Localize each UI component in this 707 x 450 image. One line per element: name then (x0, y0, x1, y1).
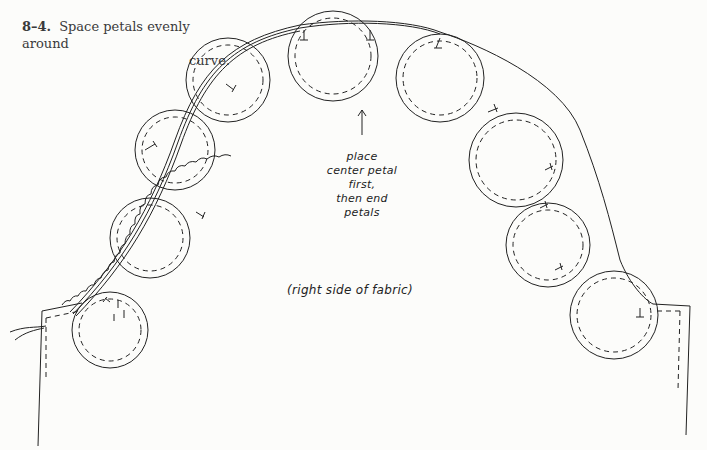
petal-2 (110, 198, 190, 278)
petal-4 (186, 38, 270, 122)
petal-7 (469, 113, 563, 207)
garment-left-edge (38, 311, 42, 446)
petal-1 (72, 292, 148, 368)
note-line: then end (312, 192, 412, 206)
petal-placement-note: place center petal first, then end petal… (312, 150, 412, 220)
petal-diagram (0, 0, 707, 450)
arrow-icon (358, 110, 366, 135)
note-line: petals (312, 206, 412, 220)
note-line: place (312, 150, 412, 164)
petal-6 (396, 34, 484, 122)
garment-right-shoulder (653, 304, 690, 306)
petal-9 (570, 271, 658, 359)
scalloped-edge (62, 155, 231, 305)
note-line: center petal (312, 164, 412, 178)
petal-8 (506, 203, 590, 287)
garment-right-edge (686, 306, 690, 435)
note-line: first, (312, 178, 412, 192)
fabric-side-label: (right side of fabric) (270, 283, 430, 297)
